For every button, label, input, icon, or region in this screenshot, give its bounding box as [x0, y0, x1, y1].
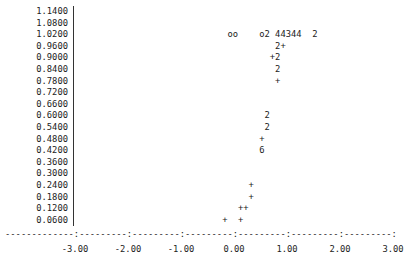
y-tick-label: 1.1400	[0, 6, 68, 18]
plot-row: 2	[5, 110, 270, 122]
x-tick-label: 1.00	[267, 244, 307, 255]
x-tick-label: 0.00	[214, 244, 254, 255]
y-tick-label: 1.0800	[0, 18, 68, 30]
text-scatter-plot: 1.1400 1.0800 1.0200 0.9600 0.9000 0.840…	[0, 0, 420, 261]
plot-row: 2	[5, 122, 270, 134]
x-tick-label: 3.00	[373, 244, 413, 255]
plot-row: + +	[5, 215, 243, 227]
plot-row: +	[5, 180, 254, 192]
plot-row: ++	[5, 203, 249, 215]
plot-row: +2	[5, 52, 280, 64]
plot-row: +	[5, 76, 280, 88]
y-tick-label: 0.7200	[0, 87, 68, 99]
x-tick-label: -3.00	[55, 244, 95, 255]
y-tick-label: 0.3000	[0, 168, 68, 180]
plot-row: +	[5, 192, 254, 204]
y-tick-label: 0.3600	[0, 157, 68, 169]
x-axis-line: -------------:---------:---------:------…	[5, 229, 397, 240]
plot-row: +	[5, 134, 265, 146]
x-tick-label: 2.00	[320, 244, 360, 255]
plot-row: 2+	[5, 41, 286, 53]
x-tick-label: -1.00	[161, 244, 201, 255]
plot-row: oo o2 44344 2	[5, 29, 317, 41]
y-tick-label: 0.6600	[0, 99, 68, 111]
plot-row: 2	[5, 64, 280, 76]
x-tick-label: -2.00	[108, 244, 148, 255]
plot-row: 6	[5, 145, 265, 157]
